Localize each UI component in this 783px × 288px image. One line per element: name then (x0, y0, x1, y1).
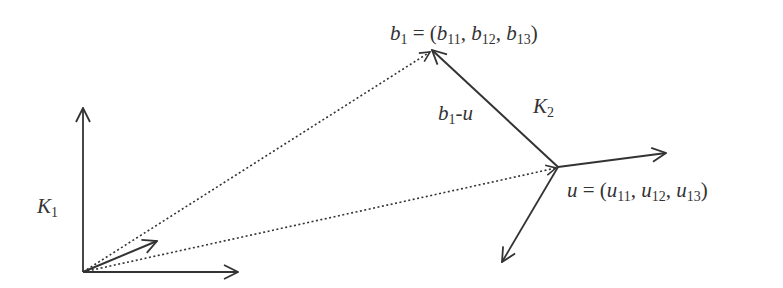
k2-axis-downleft (502, 167, 558, 262)
label-u-coordinates: u = (u11, u12, u13) (567, 178, 708, 204)
label-b1-coordinates: b1 = (b11, b12, b13) (390, 21, 538, 47)
label-k2: K2 (532, 94, 554, 120)
k1-axis-diagonal (83, 241, 157, 272)
frame-k2-axes (502, 153, 666, 262)
dotted-line-origin-to-b1 (83, 52, 430, 272)
k2-axis-right (558, 153, 666, 167)
label-b1-minus-u: b1-u (438, 101, 473, 127)
label-k1: K1 (36, 194, 58, 220)
vector-diagram: b1 = (b11, b12, b13) b1-u K2 u = (u11, u… (0, 0, 783, 288)
dotted-line-origin-to-u (83, 168, 556, 272)
frame-k1-axes (83, 108, 238, 272)
